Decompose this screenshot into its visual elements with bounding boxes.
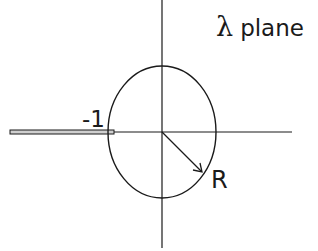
plane-title: λplane [216,11,304,42]
radius-arrow [162,132,201,171]
minus-one-label: -1 [82,106,105,132]
radius-label: R [211,166,228,194]
lambda-symbol: λ [216,11,233,42]
plane-text: plane [240,15,304,41]
